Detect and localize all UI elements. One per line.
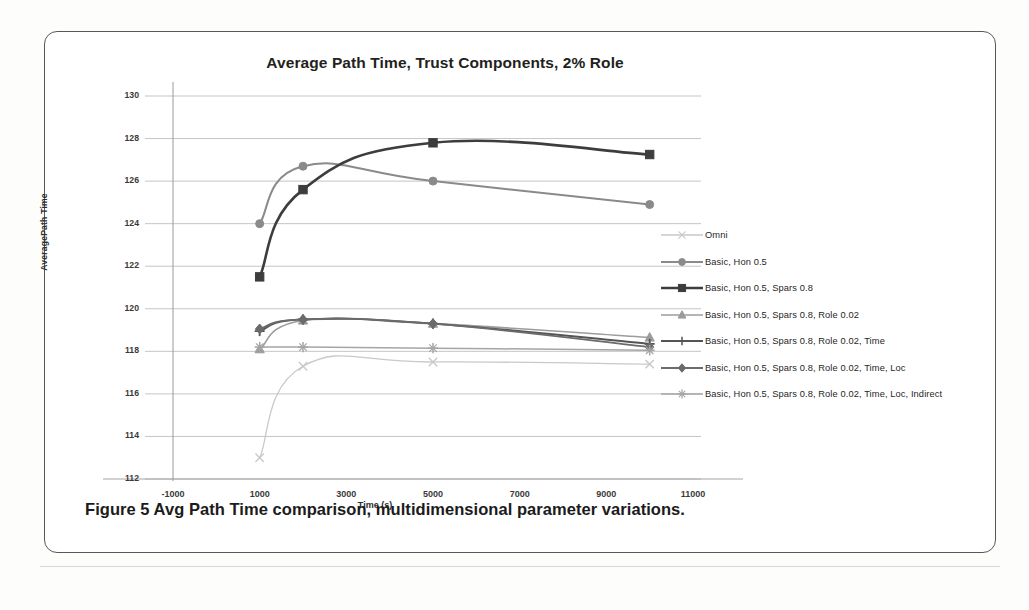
diamond-marker-icon <box>659 360 705 376</box>
legend-item-6[interactable]: Basic, Hon 0.5, Spars 0.8, Role 0.02, Ti… <box>659 381 999 408</box>
x-tick--1000: -1000 <box>143 489 203 499</box>
y-tick-112: 112 <box>105 473 139 483</box>
y-tick-120: 120 <box>105 303 139 313</box>
series-1 <box>256 162 654 227</box>
y-tick-116: 116 <box>105 388 139 398</box>
legend-item-0[interactable]: Omni <box>659 222 999 249</box>
plus-marker-icon <box>659 333 705 349</box>
legend-label: Basic, Hon 0.5, Spars 0.8, Role 0.02, Ti… <box>705 389 942 399</box>
legend-item-5[interactable]: Basic, Hon 0.5, Spars 0.8, Role 0.02, Ti… <box>659 355 999 382</box>
figure-caption: Figure 5 Avg Path Time comparison, multi… <box>85 500 685 519</box>
y-tick-114: 114 <box>105 430 139 440</box>
triangle-marker-icon <box>659 307 705 323</box>
legend-label: Basic, Hon 0.5 <box>705 257 767 267</box>
star-marker-icon <box>659 386 705 402</box>
legend-label: Omni <box>705 230 728 240</box>
x-tick-7000: 7000 <box>490 489 550 499</box>
legend-item-1[interactable]: Basic, Hon 0.5 <box>659 249 999 276</box>
x-tick-1000: 1000 <box>230 489 290 499</box>
x-tick-11000: 11000 <box>663 489 723 499</box>
x-tick-5000: 5000 <box>403 489 463 499</box>
y-tick-124: 124 <box>105 218 139 228</box>
legend-label: Basic, Hon 0.5, Spars 0.8, Role 0.02, Ti… <box>705 363 906 373</box>
y-tick-122: 122 <box>105 260 139 270</box>
y-tick-126: 126 <box>105 175 139 185</box>
y-tick-118: 118 <box>105 345 139 355</box>
legend-item-4[interactable]: Basic, Hon 0.5, Spars 0.8, Role 0.02, Ti… <box>659 328 999 355</box>
square-marker-icon <box>659 280 705 296</box>
scanned-page: Average Path Time, Trust Components, 2% … <box>0 0 1029 610</box>
y-tick-128: 128 <box>105 133 139 143</box>
series-2 <box>255 139 653 281</box>
chart-area: Average Path Time, Trust Components, 2% … <box>45 32 997 502</box>
series-0 <box>255 356 653 462</box>
legend-label: Basic, Hon 0.5, Spars 0.8, Role 0.02, Ti… <box>705 336 885 346</box>
legend-item-2[interactable]: Basic, Hon 0.5, Spars 0.8 <box>659 275 999 302</box>
legend-label: Basic, Hon 0.5, Spars 0.8, Role 0.02 <box>705 310 859 320</box>
scan-edge-line <box>40 566 1000 567</box>
x-marker-icon <box>659 227 705 243</box>
figure-container: Average Path Time, Trust Components, 2% … <box>44 31 996 553</box>
x-tick-9000: 9000 <box>576 489 636 499</box>
legend-item-3[interactable]: Basic, Hon 0.5, Spars 0.8, Role 0.02 <box>659 302 999 329</box>
y-tick-130: 130 <box>105 90 139 100</box>
legend-label: Basic, Hon 0.5, Spars 0.8 <box>705 283 813 293</box>
x-tick-3000: 3000 <box>316 489 376 499</box>
series-6 <box>255 342 655 356</box>
circle-marker-icon <box>659 254 705 270</box>
chart-legend: OmniBasic, Hon 0.5Basic, Hon 0.5, Spars … <box>659 222 999 408</box>
